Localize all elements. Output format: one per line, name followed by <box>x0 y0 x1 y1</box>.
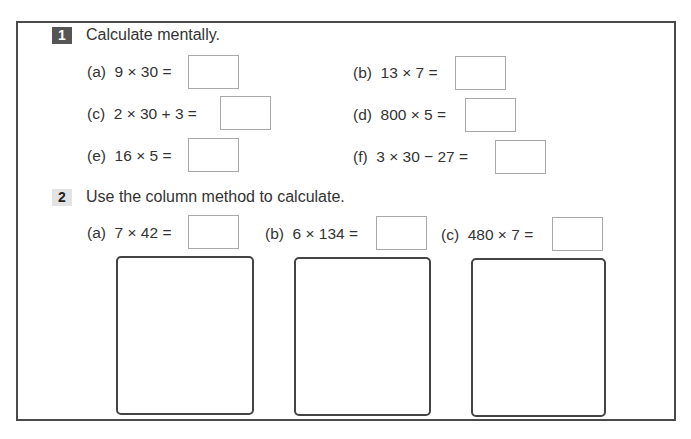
working-box-2b[interactable] <box>294 257 431 416</box>
answer-box-2c[interactable] <box>552 217 603 251</box>
question-1f: (f) 3 × 30 − 27 = <box>353 147 468 167</box>
question-2b: (b) 6 × 134 = <box>265 224 358 244</box>
answer-box-1f[interactable] <box>495 140 546 174</box>
answer-box-1e[interactable] <box>188 138 239 172</box>
question-expression: 480 × 7 = <box>468 226 534 243</box>
working-box-2a[interactable] <box>116 256 254 415</box>
question-expression: 6 × 134 = <box>293 225 359 242</box>
answer-box-2a[interactable] <box>188 215 239 249</box>
question-label: (c) <box>441 225 459 245</box>
question-expression: 2 × 30 + 3 = <box>114 105 197 122</box>
question-1a: (a) 9 × 30 = <box>87 62 171 82</box>
question-label: (f) <box>353 147 368 167</box>
question-2c: (c) 480 × 7 = <box>441 225 533 245</box>
answer-box-1b[interactable] <box>455 56 506 90</box>
question-label: (b) <box>265 224 284 244</box>
question-expression: 13 × 7 = <box>381 64 438 81</box>
section-1-instruction: Calculate mentally. <box>86 25 220 45</box>
question-1e: (e) 16 × 5 = <box>87 146 171 166</box>
answer-box-2b[interactable] <box>376 216 427 250</box>
question-label: (a) <box>87 62 106 82</box>
question-expression: 7 × 42 = <box>115 224 172 241</box>
question-label: (c) <box>87 104 105 124</box>
question-label: (e) <box>87 146 106 166</box>
section-2-number-badge: 2 <box>52 189 72 206</box>
question-label: (d) <box>353 105 372 125</box>
question-1c: (c) 2 × 30 + 3 = <box>87 104 197 124</box>
question-expression: 16 × 5 = <box>115 147 172 164</box>
question-expression: 9 × 30 = <box>115 63 172 80</box>
question-1b: (b) 13 × 7 = <box>353 63 437 83</box>
section-2-instruction: Use the column method to calculate. <box>86 187 345 207</box>
question-expression: 3 × 30 − 27 = <box>376 148 468 165</box>
working-box-2c[interactable] <box>471 258 606 417</box>
question-label: (b) <box>353 63 372 83</box>
question-2a: (a) 7 × 42 = <box>87 223 171 243</box>
answer-box-1a[interactable] <box>188 55 239 89</box>
question-label: (a) <box>87 223 106 243</box>
question-1d: (d) 800 × 5 = <box>353 105 446 125</box>
section-1-number-badge: 1 <box>52 27 72 44</box>
question-expression: 800 × 5 = <box>381 106 447 123</box>
answer-box-1d[interactable] <box>465 98 516 132</box>
answer-box-1c[interactable] <box>220 96 271 130</box>
